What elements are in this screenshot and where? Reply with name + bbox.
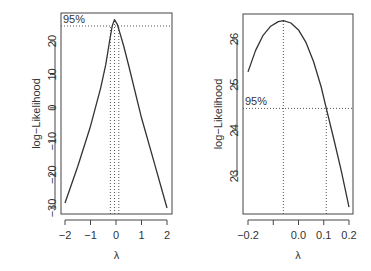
y-tick-label: 24 (228, 124, 240, 136)
x-axis-label: λ (114, 249, 120, 261)
x-tick-label: 2 (164, 229, 170, 241)
x-axis-label: λ (295, 249, 301, 261)
x-tick-label: −1 (84, 229, 97, 241)
right-plot-panel: −0.20.00.10.223242526log−Likelihoodλ95% (212, 14, 357, 261)
x-tick-label: −2 (59, 229, 72, 241)
x-tick-label: 1 (138, 229, 144, 241)
y-axis-label: log−Likelihood (30, 78, 42, 149)
left-plot-panel: −2−1012−30−20−1001020log−Likelihoodλ95% (30, 13, 172, 261)
x-tick-label: 0.2 (341, 229, 356, 241)
y-tick-label: 20 (46, 35, 58, 47)
ci-annotation: 95% (63, 13, 85, 25)
likelihood-curve (65, 20, 167, 208)
plot-frame (61, 13, 172, 214)
x-tick-label: 0 (113, 229, 119, 241)
y-tick-label: 10 (46, 68, 58, 80)
ci-annotation: 95% (245, 95, 267, 107)
likelihood-curve (248, 21, 349, 207)
y-tick-label: 25 (228, 79, 240, 91)
y-tick-label: 26 (228, 33, 240, 45)
y-tick-label: −20 (46, 165, 58, 184)
x-tick-label: 0.0 (291, 229, 306, 241)
y-tick-label: −30 (46, 199, 58, 218)
y-tick-label: 0 (46, 105, 58, 111)
y-tick-label: −10 (46, 132, 58, 151)
x-tick-label: −0.2 (237, 229, 259, 241)
y-tick-label: 23 (228, 170, 240, 182)
x-tick-label: 0.1 (316, 229, 331, 241)
y-axis-label: log−Likelihood (212, 79, 224, 150)
chart-canvas: −2−1012−30−20−1001020log−Likelihoodλ95% … (0, 0, 371, 271)
